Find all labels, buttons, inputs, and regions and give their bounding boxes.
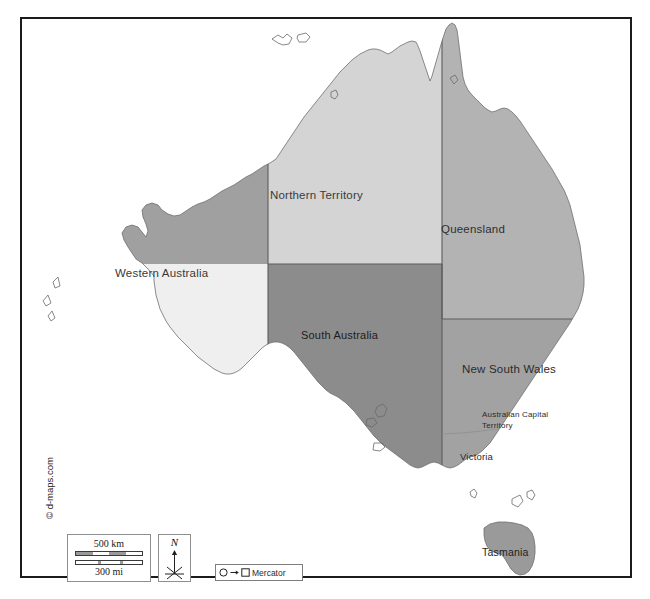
- australia-map-svg: [22, 19, 630, 576]
- state-region-wa: [22, 19, 268, 576]
- scale-bar-km: [75, 551, 143, 556]
- border-act: [517, 413, 530, 426]
- state-region-tas: [484, 522, 535, 575]
- compass-rose-icon: [159, 548, 190, 580]
- projection-legend: Mercator: [215, 564, 303, 581]
- scale-mi-label: 300 mi: [68, 566, 150, 577]
- map-frame: Western Australia Northern Territory Que…: [20, 17, 632, 578]
- compass-north-letter: N: [159, 537, 190, 548]
- arrow-right-icon: [230, 568, 239, 577]
- copyright-attribution: © d-maps.com: [44, 457, 55, 519]
- scale-bar-box: 500 km 300 mi: [67, 534, 151, 582]
- square-icon: [241, 568, 250, 577]
- state-region-nt: [268, 19, 442, 264]
- state-region-nsw: [442, 319, 630, 576]
- compass-rose-box: N: [158, 534, 191, 582]
- state-region-sa: [268, 264, 442, 576]
- state-region-qld: [442, 19, 630, 319]
- state-fills-group: [22, 19, 630, 576]
- state-region-wa-north: [22, 19, 268, 264]
- scale-bar-mi: [75, 560, 143, 565]
- scale-km-label: 500 km: [68, 538, 150, 549]
- circle-icon: [219, 568, 228, 577]
- map-screenshot: Western Australia Northern Territory Que…: [0, 0, 650, 599]
- projection-label: Mercator: [252, 568, 286, 578]
